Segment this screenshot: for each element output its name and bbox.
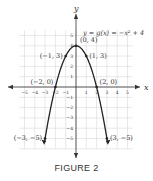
- x-tick-label: 5: [126, 90, 129, 95]
- data-point: [44, 137, 47, 140]
- x-tick-label: −5: [21, 90, 28, 95]
- parabola-graph: xy−5−4−3−2−112345−5−4−3−2−112345(0, 4)(−…: [0, 0, 153, 160]
- data-point: [54, 86, 57, 89]
- point-label: (3, −5): [110, 134, 133, 142]
- point-label: (2, 0): [100, 78, 118, 86]
- data-point: [106, 137, 109, 140]
- y-axis-down-arrow-icon: [74, 153, 78, 158]
- data-point: [85, 55, 88, 58]
- y-tick-label: 3: [70, 54, 73, 59]
- figure-caption: FIGURE 2: [0, 163, 153, 173]
- x-axis-right-arrow-icon: [135, 85, 140, 89]
- y-tick-label: −4: [66, 126, 73, 131]
- x-axis-left-arrow-icon: [8, 85, 13, 89]
- x-tick-label: −4: [31, 90, 38, 95]
- y-tick-label: 1: [70, 74, 73, 79]
- x-tick-label: −3: [42, 90, 49, 95]
- point-label: (−2, 0): [30, 78, 53, 86]
- y-axis-label: y: [73, 4, 79, 13]
- x-tick-label: 4: [116, 90, 119, 95]
- y-tick-label: −2: [66, 105, 73, 110]
- x-tick-label: 3: [105, 90, 108, 95]
- equation-label: y = g(x) = −x² + 4: [82, 29, 144, 37]
- x-axis-label: x: [144, 83, 149, 92]
- curve-left-arrow-icon: [42, 140, 47, 145]
- point-label: (1, 3): [89, 52, 107, 60]
- data-point: [75, 45, 78, 48]
- y-tick-label: −5: [66, 136, 73, 141]
- data-point: [95, 86, 98, 89]
- y-tick-label: −3: [66, 115, 73, 120]
- point-label: (−1, 3): [40, 52, 63, 60]
- data-point: [64, 55, 67, 58]
- point-label: (−3, −5): [14, 134, 43, 142]
- y-tick-label: 2: [70, 64, 73, 69]
- y-axis-up-arrow-icon: [74, 14, 78, 19]
- y-tick-label: 5: [70, 33, 73, 38]
- y-tick-label: −1: [66, 95, 73, 100]
- x-tick-label: 1: [85, 90, 88, 95]
